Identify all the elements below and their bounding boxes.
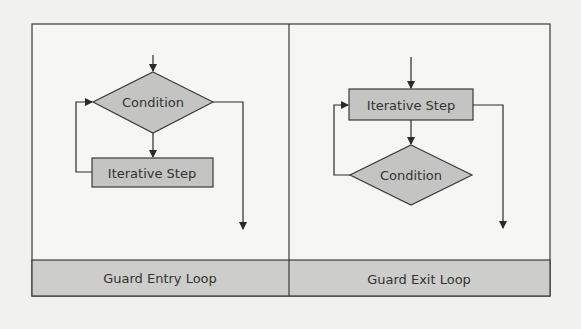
caption-guard-entry-loop: Guard Entry Loop (103, 271, 217, 286)
condition-label: Condition (122, 95, 184, 110)
iterative-step-label: Iterative Step (367, 98, 455, 113)
loop-comparison-diagram: Condition Iterative Step Guard Entry Loo… (0, 0, 581, 329)
iterative-step-label: Iterative Step (108, 166, 196, 181)
condition-label: Condition (380, 168, 442, 183)
caption-guard-exit-loop: Guard Exit Loop (367, 272, 471, 287)
